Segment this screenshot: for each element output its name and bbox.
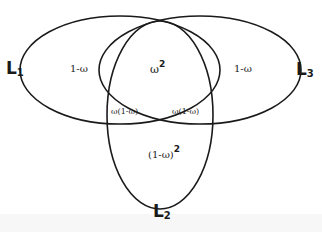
venn-diagram	[0, 0, 322, 232]
region-l1-l3-overlap: ω2	[150, 60, 165, 75]
label-l2-subscript: 2	[164, 210, 171, 221]
label-l3: L3	[296, 61, 314, 79]
label-l2: L2	[153, 203, 171, 221]
label-l1-subscript: 1	[17, 67, 24, 78]
region-l2-exponent: 2	[174, 144, 180, 154]
region-l2-base: (1-ω)	[148, 149, 174, 160]
label-l1-letter: L	[6, 58, 17, 78]
label-l1: L1	[6, 60, 24, 78]
region-l1-l3-exponent: 2	[159, 59, 165, 69]
region-l1-only: 1-ω	[70, 64, 88, 74]
region-l3-only: 1-ω	[234, 64, 252, 74]
label-l2-letter: L	[153, 201, 164, 221]
label-l3-letter: L	[296, 59, 307, 79]
label-l3-subscript: 3	[307, 68, 314, 79]
region-l2-only: (1-ω)2	[148, 145, 180, 160]
region-l1-l3-base: ω	[150, 63, 159, 76]
region-l1-l2-overlap: ω(1-ω)	[111, 108, 138, 116]
region-l3-l2-overlap: ω(1-ω)	[172, 108, 199, 116]
